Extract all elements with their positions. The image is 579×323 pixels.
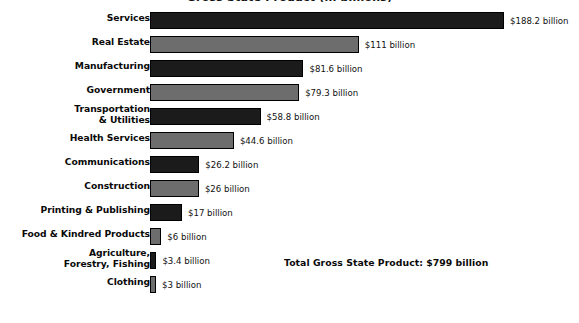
- bar-and-value: $58.8 billion: [150, 108, 320, 125]
- bar: [150, 36, 359, 53]
- chart-row: Construction$26 billion: [0, 177, 579, 201]
- chart-row: Services$188.2 billion: [0, 9, 579, 33]
- bar-category-label-line2: Forestry, Fishing: [2, 259, 150, 270]
- bar-category-label-line1: Real Estate: [2, 37, 150, 48]
- chart-row: Communications$26.2 billion: [0, 153, 579, 177]
- bar-and-value: $17 billion: [150, 204, 233, 221]
- bar-category-label: Agriculture,Forestry, Fishing: [2, 248, 150, 269]
- bar-value-label: $58.8 billion: [267, 112, 320, 122]
- bar-category-label: Health Services: [2, 133, 150, 144]
- bar-category-label: Government: [2, 85, 150, 96]
- bar-and-value: $6 billion: [150, 228, 207, 245]
- bar: [150, 156, 199, 173]
- bar-and-value: $44.6 billion: [150, 132, 293, 149]
- bar: [150, 108, 261, 125]
- bar-category-label: Clothing: [2, 277, 150, 288]
- bar-value-label: $3 billion: [162, 280, 201, 290]
- bar-chart: Gross State Product (in billions) Servic…: [0, 0, 579, 323]
- bar: [150, 276, 156, 293]
- bar-value-label: $81.6 billion: [309, 64, 362, 74]
- bar-value-label: $3.4 billion: [162, 256, 210, 266]
- bar-and-value: $26 billion: [150, 180, 250, 197]
- bar-value-label: $111 billion: [365, 40, 415, 50]
- bar-category-label-line1: Transportation: [2, 104, 150, 115]
- bar-category-label-line1: Health Services: [2, 133, 150, 144]
- bar: [150, 60, 303, 77]
- bar: [150, 228, 161, 245]
- bar-category-label-line1: Clothing: [2, 277, 150, 288]
- bar-category-label: Communications: [2, 157, 150, 168]
- bar-category-label-line1: Services: [2, 13, 150, 24]
- bar-category-label-line1: Manufacturing: [2, 61, 150, 72]
- bar: [150, 12, 504, 29]
- bar-category-label: Services: [2, 13, 150, 24]
- chart-row: Government$79.3 billion: [0, 81, 579, 105]
- bar-value-label: $44.6 billion: [240, 136, 293, 146]
- bar-and-value: $26.2 billion: [150, 156, 258, 173]
- bar: [150, 252, 156, 269]
- chart-plot-area: Services$188.2 billionReal Estate$111 bi…: [0, 9, 579, 297]
- bar-category-label-line1: Communications: [2, 157, 150, 168]
- bar-and-value: $3 billion: [150, 276, 201, 293]
- bar-category-label-line1: Printing & Publishing: [2, 205, 150, 216]
- bar-category-label-line1: Food & Kindred Products: [2, 229, 150, 240]
- bar-value-label: $26.2 billion: [205, 160, 258, 170]
- bar: [150, 204, 182, 221]
- total-annotation: Total Gross State Product: $799 billion: [284, 257, 488, 268]
- bar-value-label: $6 billion: [167, 232, 206, 242]
- bar-and-value: $81.6 billion: [150, 60, 363, 77]
- bar-category-label: Printing & Publishing: [2, 205, 150, 216]
- bar-value-label: $79.3 billion: [305, 88, 358, 98]
- bar-value-label: $188.2 billion: [510, 16, 569, 26]
- chart-row: Health Services$44.6 billion: [0, 129, 579, 153]
- bar-category-label: Real Estate: [2, 37, 150, 48]
- bar-category-label-line1: Agriculture,: [2, 248, 150, 259]
- bar-category-label-line1: Construction: [2, 181, 150, 192]
- chart-row: Clothing$3 billion: [0, 273, 579, 297]
- bar-category-label: Transportation& Utilities: [2, 104, 150, 125]
- bar-category-label: Construction: [2, 181, 150, 192]
- chart-row: Transportation& Utilities$58.8 billion: [0, 105, 579, 129]
- bar-category-label: Food & Kindred Products: [2, 229, 150, 240]
- bar-category-label-line1: Government: [2, 85, 150, 96]
- bar: [150, 132, 234, 149]
- chart-row: Food & Kindred Products$6 billion: [0, 225, 579, 249]
- bar: [150, 84, 299, 101]
- chart-title: Gross State Product (in billions): [0, 0, 579, 2]
- bar-and-value: $79.3 billion: [150, 84, 358, 101]
- chart-row: Real Estate$111 billion: [0, 33, 579, 57]
- bar-value-label: $26 billion: [205, 184, 250, 194]
- bar-and-value: $111 billion: [150, 36, 415, 53]
- bar-and-value: $3.4 billion: [150, 252, 210, 269]
- bar-value-label: $17 billion: [188, 208, 233, 218]
- bar-and-value: $188.2 billion: [150, 12, 569, 29]
- bar-category-label-line2: & Utilities: [2, 115, 150, 126]
- bar: [150, 180, 199, 197]
- chart-row: Manufacturing$81.6 billion: [0, 57, 579, 81]
- chart-row: Printing & Publishing$17 billion: [0, 201, 579, 225]
- bar-category-label: Manufacturing: [2, 61, 150, 72]
